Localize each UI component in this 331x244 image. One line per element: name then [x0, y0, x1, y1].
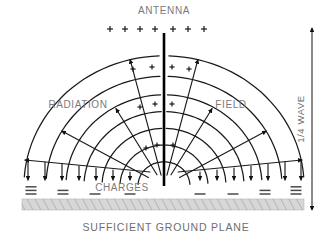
negative-charge-group	[26, 187, 302, 194]
field-arc-right-5	[46, 76, 160, 178]
field-arc-right-6	[24, 56, 159, 177]
quarter-wave-label: 1/4 WAVE	[295, 95, 306, 143]
radiation-label: RADIATION	[48, 99, 107, 110]
field-arc-right-2	[102, 128, 162, 182]
field-arc-left-5	[168, 76, 282, 178]
left-ground-return-line	[25, 160, 150, 172]
antenna-field-diagram: ANTENNA RADIATION FIELD CHARGES SUFFICIE…	[0, 0, 331, 244]
field-arc-right-1	[120, 145, 162, 183]
field-arc-left-6	[169, 56, 304, 177]
radial-field-line-4	[116, 109, 157, 175]
ground-plane-hatching	[22, 199, 304, 210]
ground-plane-label: SUFFICIENT GROUND PLANE	[83, 221, 250, 233]
radial-field-line-1	[171, 109, 212, 175]
antenna-positive-charge-group	[107, 26, 207, 32]
diagram-canvas: ANTENNA RADIATION FIELD CHARGES SUFFICIE…	[0, 0, 331, 244]
field-arc-left-1	[166, 145, 208, 183]
antenna-label: ANTENNA	[138, 5, 190, 16]
field-label: FIELD	[215, 99, 246, 110]
charges-label: CHARGES	[95, 182, 149, 193]
